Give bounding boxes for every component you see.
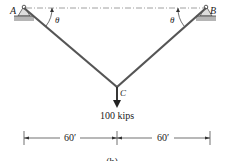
- dimension-line: [24, 131, 210, 145]
- angle-a-label: θ: [55, 15, 60, 25]
- angle-arrow-b-icon: [176, 8, 180, 12]
- cable-diagram: A B θ θ C 100 kips 60′ 60′ (b): [0, 0, 225, 161]
- angle-arrow-a-icon: [50, 8, 54, 12]
- load-label: 100 kips: [100, 110, 134, 121]
- support-a-label: A: [9, 5, 17, 16]
- angle-b-label: θ: [170, 15, 175, 25]
- cable-ac: [24, 8, 117, 87]
- support-b-label: B: [210, 5, 216, 16]
- joint-c-label: C: [120, 88, 127, 98]
- figure-caption: (b): [106, 156, 118, 161]
- dim-right-label: 60′: [157, 132, 169, 143]
- cable-bc: [117, 8, 206, 87]
- load-arrow-icon: [113, 100, 121, 108]
- dim-left-label: 60′: [64, 132, 76, 143]
